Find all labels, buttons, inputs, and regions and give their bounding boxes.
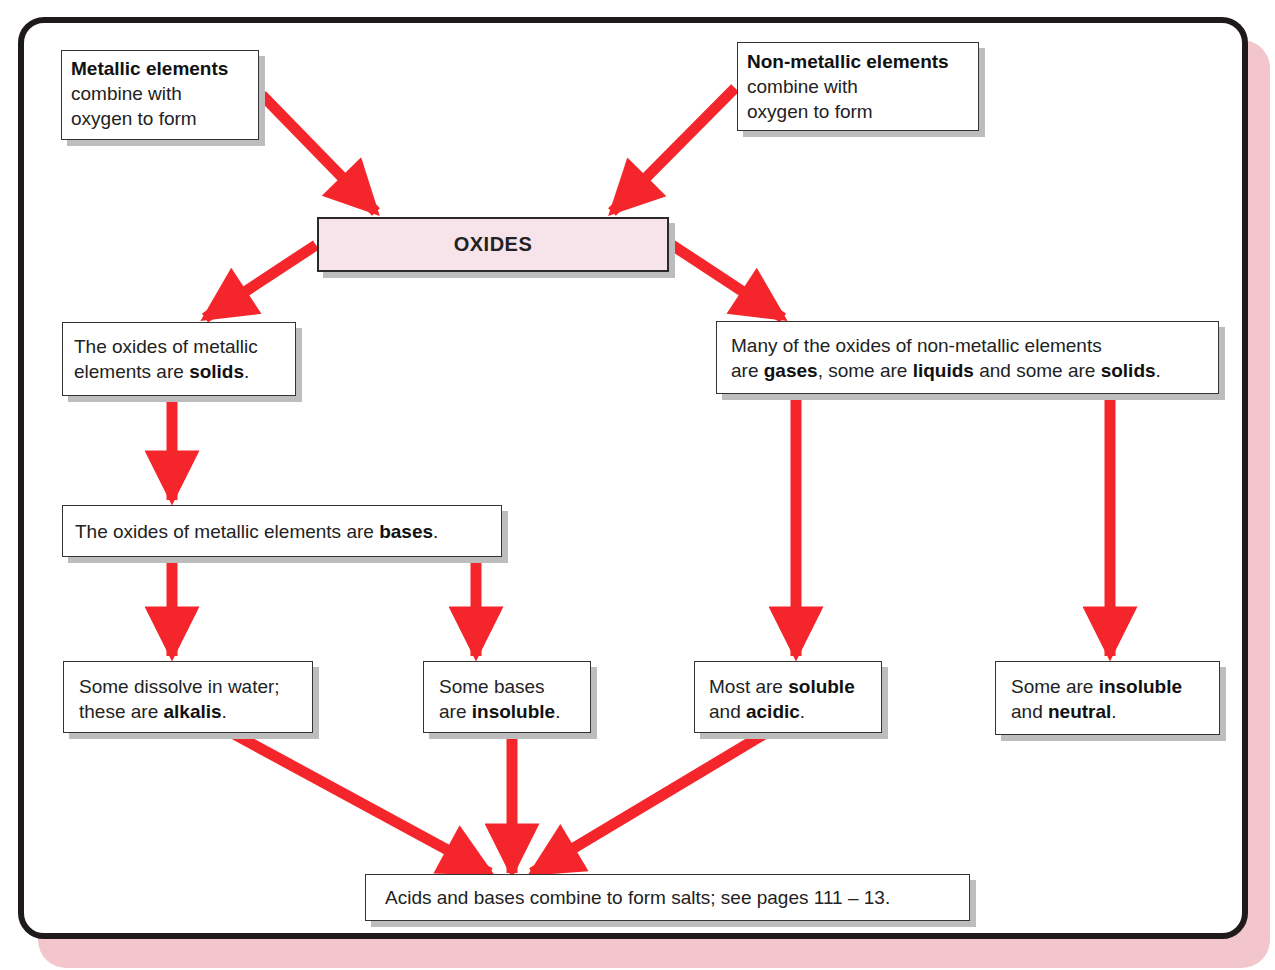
bold-text: insoluble	[472, 701, 555, 722]
text: are	[439, 701, 472, 722]
node-salts: Acids and bases combine to form salts; s…	[365, 874, 970, 921]
bold-text: bases	[379, 521, 433, 542]
text: and some are	[974, 360, 1101, 381]
bold-text: insoluble	[1099, 676, 1182, 697]
node-nonmetallic-line3: oxygen to form	[747, 99, 969, 124]
node-metal-solids: The oxides of metallic elements are soli…	[62, 322, 296, 396]
bold-text: alkalis	[164, 701, 222, 722]
node-insoluble-bases: Some bases are insoluble.	[423, 661, 591, 733]
arrow-oxides-to-states	[672, 245, 783, 318]
text: , some are	[818, 360, 913, 381]
node-metallic-line2: combine with	[71, 81, 249, 106]
text: Most are	[709, 676, 788, 697]
text: .	[222, 701, 227, 722]
node-metal-bases: The oxides of metallic elements are base…	[62, 505, 502, 557]
text: .	[1156, 360, 1161, 381]
node-soluble-acidic: Most are soluble and acidic.	[694, 661, 882, 733]
text: are	[731, 360, 764, 381]
bold-text: neutral	[1048, 701, 1111, 722]
text: these are	[79, 701, 164, 722]
arrow-alkalis-to-salts	[232, 733, 490, 873]
arrow-oxides-to-solids	[205, 245, 316, 318]
text: The oxides of metallic elements are	[75, 521, 379, 542]
arrow-metallic-to-oxides	[262, 95, 376, 212]
text: Some are	[1011, 676, 1099, 697]
bold-text: liquids	[913, 360, 974, 381]
node-metallic-title: Metallic elements	[71, 58, 228, 79]
text: .	[433, 521, 438, 542]
arrow-acidic-to-salts	[532, 733, 766, 873]
text: elements are	[74, 361, 189, 382]
node-alkalis-line1: Some dissolve in water;	[79, 674, 297, 699]
node-oxides-label: OXIDES	[454, 232, 533, 257]
arrow-nonmetallic-to-oxides	[612, 88, 735, 212]
bold-text: gases	[764, 360, 818, 381]
node-metallic-line3: oxygen to form	[71, 106, 249, 131]
bold-text: solids	[189, 361, 244, 382]
arrows-layer	[0, 0, 1275, 970]
node-alkalis: Some dissolve in water; these are alkali…	[63, 661, 313, 733]
node-nonmetallic-line2: combine with	[747, 74, 969, 99]
text: and	[709, 701, 746, 722]
node-salts-label: Acids and bases combine to form salts; s…	[385, 887, 890, 908]
text: and	[1011, 701, 1048, 722]
node-insoluble-neutral: Some are insoluble and neutral.	[995, 661, 1220, 735]
bold-text: solids	[1101, 360, 1156, 381]
node-oxides: OXIDES	[317, 217, 669, 272]
node-nonmetal-states: Many of the oxides of non-metallic eleme…	[716, 321, 1219, 394]
node-metal-solids-line1: The oxides of metallic	[74, 334, 284, 359]
bold-text: soluble	[788, 676, 855, 697]
node-nonmetallic-elements: Non-metallic elements combine with oxyge…	[737, 42, 979, 131]
bold-text: acidic	[746, 701, 800, 722]
node-nonmetal-states-line1: Many of the oxides of non-metallic eleme…	[731, 333, 1204, 358]
node-nonmetallic-title: Non-metallic elements	[747, 51, 949, 72]
text: .	[800, 701, 805, 722]
node-metallic-elements: Metallic elements combine with oxygen to…	[61, 50, 259, 140]
node-insoluble-bases-line1: Some bases	[439, 674, 575, 699]
text: .	[555, 701, 560, 722]
text: .	[244, 361, 249, 382]
text: .	[1111, 701, 1116, 722]
